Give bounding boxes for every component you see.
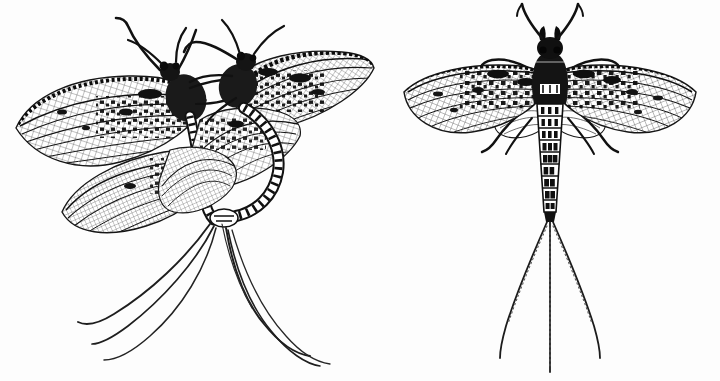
illustration-plate — [0, 0, 720, 381]
single-mayfly-drawing — [380, 0, 720, 381]
figure-single-specimen — [380, 0, 720, 381]
figure-mating-pair — [0, 0, 380, 381]
thorax — [532, 56, 568, 104]
mating-pair-drawing — [0, 0, 380, 381]
